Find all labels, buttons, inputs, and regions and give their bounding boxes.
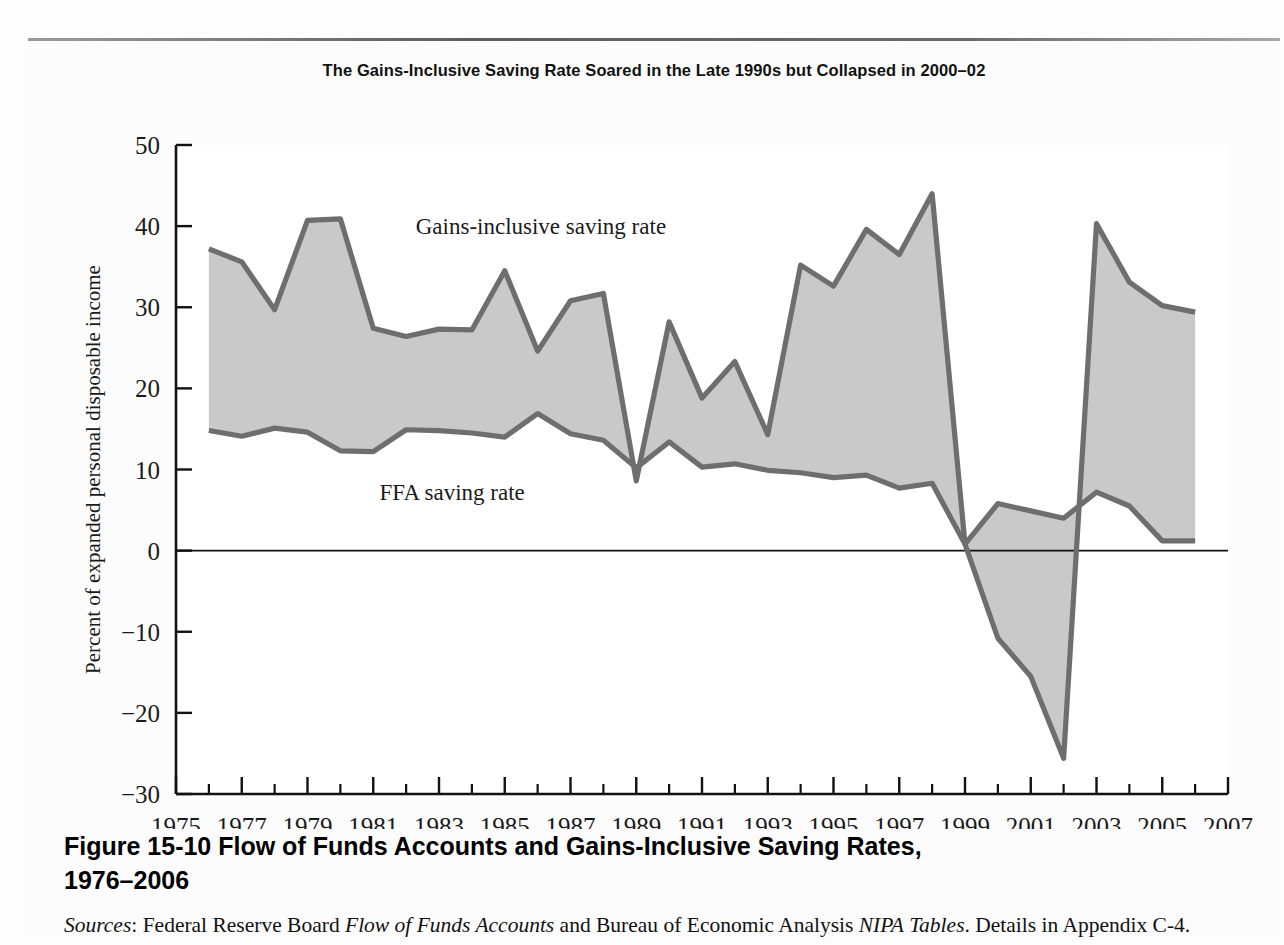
x-tick-label: 2005 bbox=[1137, 813, 1187, 829]
y-tick-label: 10 bbox=[135, 457, 160, 484]
caption-line-2: 1976–2006 bbox=[64, 865, 1254, 897]
y-axis-title: Percent of expanded personal disposable … bbox=[81, 265, 105, 674]
y-tick-label: 0 bbox=[148, 538, 161, 565]
x-tick-label: 1977 bbox=[217, 813, 267, 829]
y-tick-label: 30 bbox=[135, 294, 160, 321]
x-tick-label: 2001 bbox=[1006, 813, 1056, 829]
y-tick-label: 40 bbox=[135, 213, 160, 240]
x-tick-label: 1989 bbox=[611, 813, 661, 829]
x-tick-label: 1993 bbox=[743, 813, 793, 829]
y-tick-label: −20 bbox=[121, 700, 160, 727]
x-tick-label: 2007 bbox=[1203, 813, 1253, 829]
chart-plot-area: 50403020100−10−20−3019751977197919811983… bbox=[28, 89, 1280, 829]
sources-italic-b: NIPA bbox=[859, 913, 904, 937]
caption-line-1: Flow of Funds Accounts and Gains-Inclusi… bbox=[218, 832, 921, 860]
sources-italic-a: Flow of Funds Accounts bbox=[345, 913, 554, 937]
sources-text-c: . Details in Appendix C-4. bbox=[965, 913, 1191, 937]
y-tick-label: 50 bbox=[135, 132, 160, 159]
x-tick-label: 1991 bbox=[677, 813, 727, 829]
annotation-gains-inclusive: Gains-inclusive saving rate bbox=[416, 214, 666, 239]
x-tick-label: 1995 bbox=[809, 813, 859, 829]
x-tick-label: 1981 bbox=[348, 813, 398, 829]
x-tick-label: 1983 bbox=[414, 813, 464, 829]
sources-italic-c: Tables bbox=[909, 913, 964, 937]
x-tick-label: 1985 bbox=[480, 813, 530, 829]
annotation-ffa: FFA saving rate bbox=[380, 480, 525, 505]
x-tick-label: 1987 bbox=[546, 813, 596, 829]
x-tick-label: 1975 bbox=[151, 813, 201, 829]
sources-text-a: : Federal Reserve Board bbox=[131, 913, 345, 937]
figure-sources: Sources: Federal Reserve Board Flow of F… bbox=[64, 909, 1254, 941]
figure-caption: Figure 15-10 Flow of Funds Accounts and … bbox=[64, 831, 1254, 941]
saving-rate-area-chart: 50403020100−10−20−3019751977197919811983… bbox=[28, 89, 1280, 829]
x-tick-label: 1999 bbox=[940, 813, 990, 829]
sources-text-b: and Bureau of Economic Analysis bbox=[554, 913, 859, 937]
x-tick-label: 2003 bbox=[1072, 813, 1122, 829]
x-tick-label: 1979 bbox=[283, 813, 333, 829]
y-tick-label: 20 bbox=[135, 375, 160, 402]
figure-page: The Gains-Inclusive Saving Rate Soared i… bbox=[0, 0, 1284, 945]
chart-title: The Gains-Inclusive Saving Rate Soared i… bbox=[28, 61, 1280, 80]
figure-card: The Gains-Inclusive Saving Rate Soared i… bbox=[28, 41, 1280, 937]
y-tick-label: −10 bbox=[121, 619, 160, 646]
page-bleed-text bbox=[640, 0, 1280, 20]
y-tick-label: −30 bbox=[121, 781, 160, 808]
sources-label: Sources bbox=[64, 913, 131, 937]
figure-number: Figure 15-10 bbox=[64, 832, 211, 860]
x-tick-label: 1997 bbox=[874, 813, 924, 829]
